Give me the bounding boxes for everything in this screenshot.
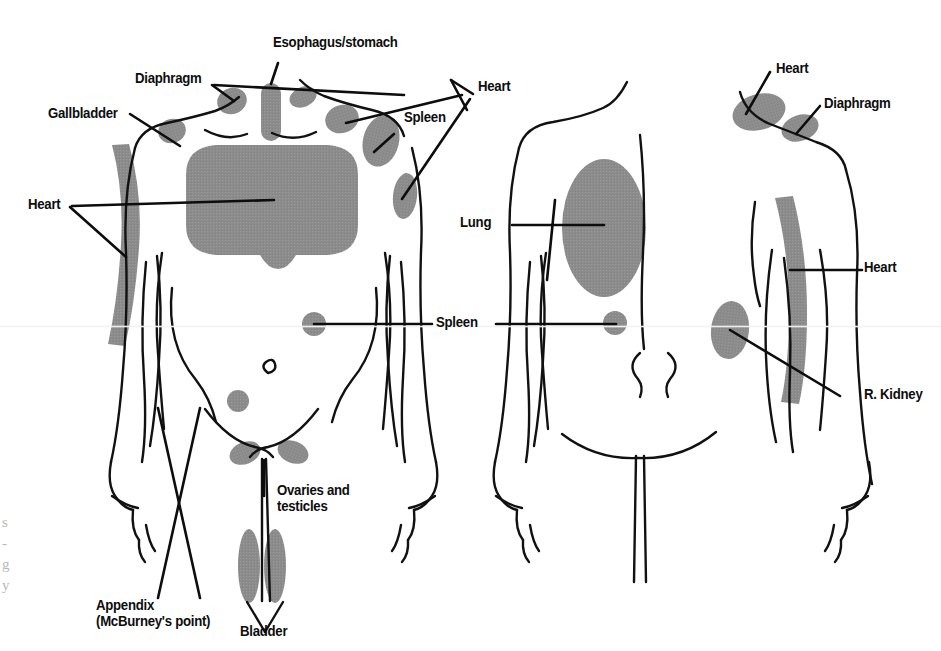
label-heart-left-arm: Heart <box>28 196 60 212</box>
label-esophagus-stomach: Esophagus/stomach <box>273 34 398 50</box>
label-diaphragm-posterior: Diaphragm <box>824 95 891 111</box>
label-gallbladder: Gallbladder <box>48 105 118 121</box>
label-spleen-shoulder: Spleen <box>404 109 446 125</box>
posterior-body-outline <box>494 82 872 582</box>
label-heart-posterior-shoulder: Heart <box>776 60 808 76</box>
label-spleen-flank: Spleen <box>436 314 478 330</box>
label-lung: Lung <box>460 214 491 230</box>
page-edge-text-fragment: s - g y <box>2 512 10 596</box>
posterior-pain-shading <box>562 87 822 404</box>
label-heart-anterior-right: Heart <box>478 78 510 94</box>
referred-pain-diagram: Esophagus/stomach Diaphragm Gallbladder … <box>0 0 941 651</box>
label-bladder: Bladder <box>240 623 287 639</box>
label-ovaries-testicles: Ovaries and testicles <box>277 482 350 514</box>
label-heart-posterior-flank: Heart <box>864 259 896 275</box>
label-appendix: Appendix (McBurney's point) <box>96 597 210 629</box>
label-r-kidney: R. Kidney <box>864 386 923 402</box>
label-diaphragm-anterior: Diaphragm <box>135 70 202 86</box>
